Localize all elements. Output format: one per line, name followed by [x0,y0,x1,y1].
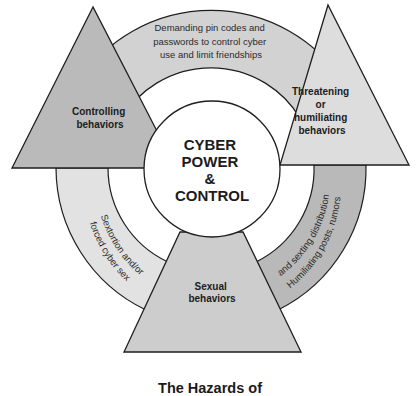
power-control-wheel: CYBER POWER & CONTROL Controlling behavi… [0,0,420,396]
ring-top-text: Demanding pin codes and passwords to con… [153,22,269,60]
sexual-label: Sexual behaviors [188,281,236,304]
diagram-caption: The Hazards of [0,380,420,396]
